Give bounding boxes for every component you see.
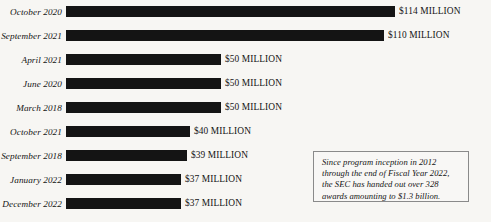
value-label: $50 MILLION xyxy=(225,53,282,66)
value-label: $50 MILLION xyxy=(225,101,282,114)
value-label: $50 MILLION xyxy=(225,77,282,90)
annotation-line-4: awards amounting to $1.3 billion. xyxy=(322,191,461,202)
category-label: October 2021 xyxy=(0,127,62,138)
bar-track xyxy=(66,150,187,161)
category-label: June 2020 xyxy=(0,79,62,90)
annotation-callout: Since program inception in 2012 through … xyxy=(313,151,469,202)
bar xyxy=(66,30,384,41)
category-label: December 2022 xyxy=(0,199,62,210)
category-label: September 2021 xyxy=(0,31,62,42)
bar xyxy=(66,174,181,185)
bar xyxy=(66,6,395,17)
annotation-line-3: the SEC has handed out over 328 xyxy=(322,179,461,190)
bar-track xyxy=(66,174,181,185)
bar xyxy=(66,126,190,137)
category-label: September 2018 xyxy=(0,151,62,162)
bar xyxy=(66,54,221,65)
bar-track xyxy=(66,6,395,17)
category-label: March 2018 xyxy=(0,103,62,114)
annotation-line-1: Since program inception in 2012 xyxy=(322,157,461,168)
table-row: September 2021 $110 MILLION xyxy=(0,24,491,48)
bar-track xyxy=(66,78,221,89)
bar-track xyxy=(66,198,181,209)
bar-track xyxy=(66,30,384,41)
category-label: April 2021 xyxy=(0,55,62,66)
value-label: $114 MILLION xyxy=(399,5,461,18)
table-row: June 2020 $50 MILLION xyxy=(0,72,491,96)
category-label: January 2022 xyxy=(0,175,62,186)
table-row: April 2021 $50 MILLION xyxy=(0,48,491,72)
value-label: $40 MILLION xyxy=(194,125,251,138)
value-label: $110 MILLION xyxy=(388,29,450,42)
annotation-line-2: through the end of Fiscal Year 2022, xyxy=(322,168,461,179)
bar xyxy=(66,102,221,113)
value-label: $37 MILLION xyxy=(185,197,242,210)
bar-chart: October 2020 $114 MILLION September 2021… xyxy=(0,0,491,222)
value-label: $37 MILLION xyxy=(185,173,242,186)
table-row: October 2020 $114 MILLION xyxy=(0,0,491,24)
category-label: October 2020 xyxy=(0,7,62,18)
bar-track xyxy=(66,126,190,137)
table-row: March 2018 $50 MILLION xyxy=(0,96,491,120)
bar-track xyxy=(66,102,221,113)
table-row: October 2021 $40 MILLION xyxy=(0,120,491,144)
bar-track xyxy=(66,54,221,65)
bar xyxy=(66,78,221,89)
value-label: $39 MILLION xyxy=(191,149,248,162)
bar xyxy=(66,150,187,161)
bar xyxy=(66,198,181,209)
